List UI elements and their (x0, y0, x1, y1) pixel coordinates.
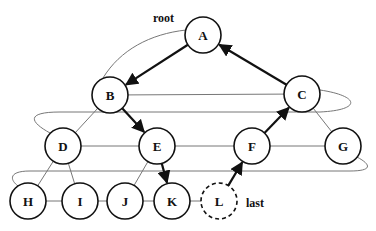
traversal-path-arrows (122, 45, 289, 186)
node-i: I (62, 183, 98, 219)
path-arrow-a-b (126, 45, 188, 85)
last-label: last (246, 196, 264, 210)
node-g: G (325, 128, 361, 164)
node-k: K (154, 183, 190, 219)
node-d: D (45, 128, 81, 164)
path-arrow-e-k (162, 163, 167, 182)
node-label: L (215, 194, 224, 209)
node-label: F (248, 139, 256, 154)
node-f: F (234, 128, 270, 164)
path-arrow-c-a (219, 45, 286, 85)
node-label: D (58, 139, 67, 154)
tree-edge-e-j (134, 162, 148, 186)
node-label: A (198, 28, 208, 43)
node-label: K (167, 194, 178, 209)
node-j: J (107, 183, 143, 219)
node-label: J (122, 194, 129, 209)
node-label: B (106, 88, 115, 103)
node-label: E (153, 139, 162, 154)
node-a: A (185, 17, 221, 53)
node-h: H (10, 183, 46, 219)
node-label: G (338, 139, 348, 154)
node-label: H (23, 194, 33, 209)
tree-edge-d-h (38, 161, 54, 186)
path-arrow-l-f (228, 162, 242, 185)
node-e: E (139, 128, 175, 164)
node-l: L (201, 183, 237, 219)
root-label: root (153, 11, 174, 25)
node-c: C (284, 76, 320, 112)
path-arrow-f-c (264, 108, 288, 133)
binary-heap-diagram: ABCDEFGHIJKL root last (0, 0, 376, 231)
level-link-b-c (128, 94, 284, 95)
node-label: I (77, 194, 82, 209)
node-b: B (92, 77, 128, 113)
tree-edge-d-i (68, 163, 74, 184)
node-label: C (297, 87, 306, 102)
